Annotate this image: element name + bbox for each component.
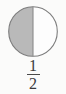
circle-graphic	[8, 6, 58, 57]
fraction-numerator: 1	[0, 58, 66, 73]
unshaded-half-right	[33, 7, 57, 57]
fraction-label: 1 2	[0, 58, 66, 91]
circle-model	[8, 6, 58, 57]
fraction-denominator: 2	[0, 76, 66, 91]
fraction-diagram: 1 2	[0, 0, 66, 94]
shaded-half-left	[9, 7, 33, 57]
